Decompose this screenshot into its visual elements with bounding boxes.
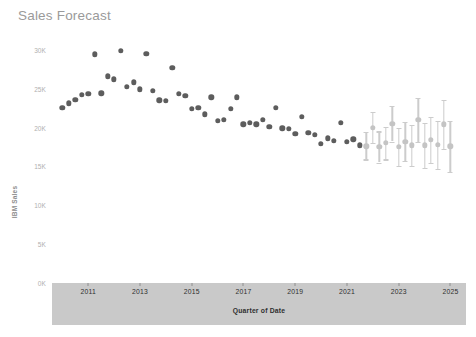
data-point[interactable] [111,77,116,82]
data-point[interactable] [105,74,110,79]
data-point[interactable] [357,143,362,148]
data-point[interactable] [170,65,175,70]
x-tick-label: 2019 [287,288,303,295]
confidence-interval-cap [383,127,388,128]
confidence-interval-cap [370,112,375,113]
data-point[interactable] [98,91,103,96]
x-tick-mark [191,283,192,286]
data-point[interactable] [293,131,298,136]
data-point[interactable] [195,105,200,110]
data-point[interactable] [124,84,129,89]
confidence-interval-cap [429,163,434,164]
data-point[interactable] [150,88,155,93]
data-point[interactable] [221,117,226,122]
x-tick-mark [398,283,399,286]
data-point[interactable] [254,122,259,127]
data-point[interactable] [92,52,97,57]
data-point[interactable] [396,144,401,149]
data-point[interactable] [331,138,336,143]
x-tick-label: 2023 [391,288,407,295]
x-tick-label: 2025 [443,288,459,295]
data-point[interactable] [299,114,304,119]
data-point[interactable] [402,139,407,144]
data-point[interactable] [118,48,123,53]
confidence-interval-cap [442,100,447,101]
confidence-interval-cap [370,143,375,144]
data-point[interactable] [305,130,310,135]
data-point[interactable] [409,143,414,148]
x-tick-label: 2015 [184,288,200,295]
data-point[interactable] [441,122,446,127]
y-tick-label: 10K [34,202,46,209]
data-point[interactable] [344,139,349,144]
data-point[interactable] [286,126,291,131]
confidence-interval-cap [390,106,395,107]
data-point[interactable] [60,105,65,110]
data-point[interactable] [228,106,233,111]
data-point[interactable] [351,136,356,141]
data-point[interactable] [234,94,239,99]
x-tick-mark [346,283,347,286]
data-point[interactable] [215,118,220,123]
data-point[interactable] [312,132,317,137]
y-tick-label: 5K [38,241,46,248]
confidence-interval-cap [377,163,382,164]
data-point[interactable] [157,98,162,103]
confidence-interval-cap [364,159,369,160]
data-point[interactable] [137,87,142,92]
data-point[interactable] [435,142,440,147]
y-tick-label: 20K [34,124,46,131]
data-point[interactable] [370,125,375,130]
confidence-interval-cap [409,125,414,126]
data-point[interactable] [189,106,194,111]
data-point[interactable] [183,93,188,98]
confidence-interval-cap [403,161,408,162]
data-point[interactable] [202,112,207,117]
data-point[interactable] [364,143,369,148]
confidence-interval-cap [416,98,421,99]
data-point[interactable] [131,80,136,85]
confidence-interval-cap [409,166,414,167]
confidence-interval-cap [442,149,447,150]
data-point[interactable] [241,122,246,127]
confidence-interval-cap [390,142,395,143]
x-tick-mark [243,283,244,286]
y-axis-title: IBM Sales [11,186,18,219]
data-point[interactable] [280,126,285,131]
x-tick-mark [450,283,451,286]
page-title: Sales Forecast [18,8,111,23]
data-point[interactable] [383,140,388,145]
plot-area [52,42,466,283]
data-point[interactable] [448,143,453,148]
confidence-interval-cap [422,123,427,124]
sales-forecast-chart: Sales Forecast IBM Sales 30K25K20K15K10K… [0,0,476,337]
data-point[interactable] [163,98,168,103]
confidence-interval-cap [396,128,401,129]
data-point[interactable] [325,136,330,141]
data-point[interactable] [79,92,84,97]
data-point[interactable] [422,143,427,148]
data-point[interactable] [267,124,272,129]
data-point[interactable] [390,121,395,126]
data-point[interactable] [318,141,323,146]
confidence-interval-cap [429,117,434,118]
data-point[interactable] [176,91,181,96]
confidence-interval-cap [383,159,388,160]
data-point[interactable] [73,97,78,102]
data-point[interactable] [377,144,382,149]
confidence-interval-cap [435,169,440,170]
data-point[interactable] [260,117,265,122]
data-point[interactable] [247,120,252,125]
data-point[interactable] [144,51,149,56]
data-point[interactable] [415,117,420,122]
data-point[interactable] [208,94,213,99]
y-tick-label: 25K [34,85,46,92]
data-point[interactable] [273,105,278,110]
data-point[interactable] [66,101,71,106]
data-point[interactable] [86,91,91,96]
confidence-interval-cap [422,168,427,169]
data-point[interactable] [428,137,433,142]
confidence-interval-cap [448,172,453,173]
confidence-interval-cap [448,121,453,122]
data-point[interactable] [338,120,343,125]
